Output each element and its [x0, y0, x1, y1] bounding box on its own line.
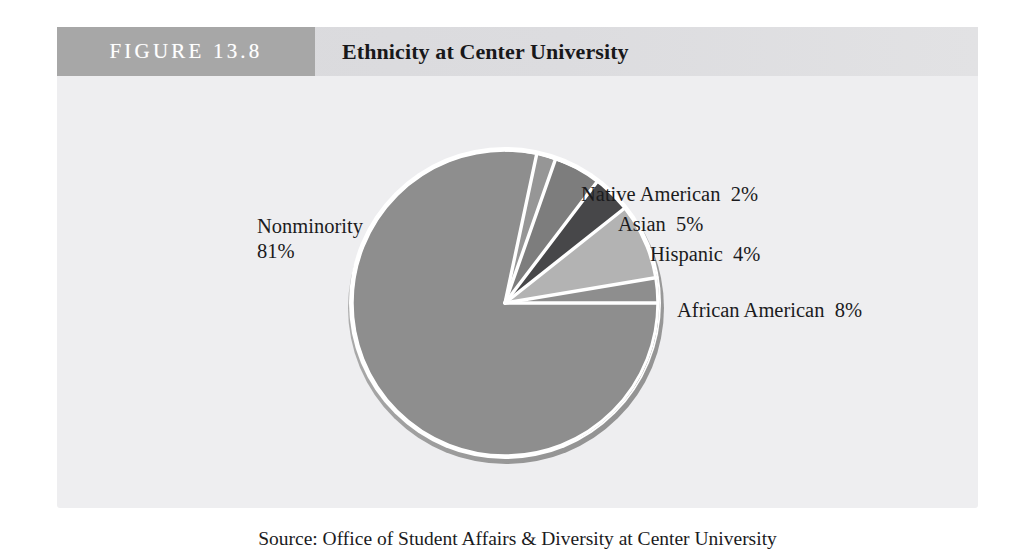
pie-chart: Nonminority 81% Native American 2% Asian…	[57, 76, 978, 508]
pie-chart-svg	[57, 76, 978, 508]
pie-label-asian: Asian 5%	[618, 212, 703, 237]
figure-number-badge: FIGURE 13.8	[57, 27, 315, 76]
pie-label-nonminority: Nonminority 81%	[257, 214, 363, 264]
pie-label-hispanic: Hispanic 4%	[650, 242, 760, 267]
pie-label-native-american: Native American 2%	[581, 182, 758, 207]
source-caption: Source: Office of Student Affairs & Dive…	[57, 528, 978, 550]
figure-title: Ethnicity at Center University	[315, 27, 978, 76]
figure-panel: FIGURE 13.8 Ethnicity at Center Universi…	[57, 27, 978, 508]
pie-label-african-american: African American 8%	[677, 298, 862, 323]
figure-header: FIGURE 13.8 Ethnicity at Center Universi…	[57, 27, 978, 76]
